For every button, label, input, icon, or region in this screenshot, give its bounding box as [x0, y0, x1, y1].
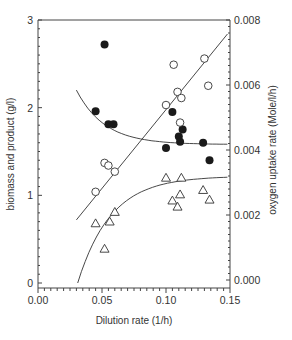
- filled-circle-marker: [206, 156, 214, 164]
- open-triangle-marker: [110, 207, 119, 215]
- y2-tick-1: 0.002: [234, 209, 260, 221]
- decay-fit-curve: [76, 90, 227, 144]
- open-circle-marker: [111, 168, 119, 176]
- x-axis-ticks: [38, 288, 230, 293]
- open-circle-marker: [105, 162, 113, 170]
- open-triangle-marker: [199, 186, 208, 194]
- open-circle-marker: [201, 55, 209, 63]
- y-tick-3: 3: [27, 14, 33, 26]
- open-triangle-marker: [91, 219, 100, 227]
- filled-circle-marker: [101, 41, 109, 49]
- open-circle-marker: [178, 94, 186, 102]
- y2-axis-title: oxygen uptake rate (Mole/l/h): [267, 85, 278, 215]
- filled-circle-marker: [92, 107, 100, 115]
- y2-tick-labels: 0.000 0.002 0.004 0.006 0.008: [234, 14, 260, 286]
- open-triangle-marker: [100, 244, 109, 252]
- open-circle-marker: [204, 82, 212, 90]
- filled-circle-marker: [199, 139, 207, 147]
- y2-tick-2: 0.004: [234, 144, 260, 156]
- y2-tick-0: 0.000: [234, 274, 260, 286]
- y-tick-labels: 0 1 2 3: [27, 14, 33, 289]
- y-tick-1: 1: [27, 189, 33, 201]
- x-tick-2: 0.10: [156, 294, 177, 306]
- open-circle-marker: [92, 188, 100, 196]
- y2-tick-3: 0.006: [234, 79, 260, 91]
- x-tick-0: 0.00: [28, 294, 49, 306]
- data-points: [91, 41, 214, 253]
- fit-curves: [76, 34, 227, 283]
- open-triangle-marker: [205, 195, 214, 203]
- open-circle-marker: [162, 101, 170, 109]
- filled-circle-marker: [168, 108, 176, 116]
- left-axis-ticks: [38, 20, 42, 283]
- filled-circle-marker: [162, 144, 170, 152]
- filled-circle-marker: [176, 138, 184, 146]
- y2-tick-4: 0.008: [234, 14, 260, 26]
- open-circle-marker: [176, 119, 184, 127]
- y-tick-2: 2: [27, 102, 33, 114]
- y-axis-title: biomass and product (g/l): [5, 98, 16, 211]
- x-tick-3: 0.15: [220, 294, 241, 306]
- y-tick-0: 0: [27, 277, 33, 289]
- filled-circle-marker: [110, 120, 118, 128]
- right-axis-ticks: [226, 20, 230, 280]
- chart: 0 1 2 3 0.000 0.002 0.004 0.006 0.008 0.…: [0, 0, 292, 340]
- open-triangle-marker: [162, 173, 171, 181]
- open-triangle-marker: [176, 190, 185, 198]
- x-axis-title: Dilution rate (1/h): [96, 315, 173, 326]
- x-tick-1: 0.05: [92, 294, 113, 306]
- open-triangle-marker: [177, 173, 186, 181]
- open-circle-marker: [170, 61, 178, 69]
- x-tick-labels: 0.00 0.05 0.10 0.15: [28, 294, 241, 306]
